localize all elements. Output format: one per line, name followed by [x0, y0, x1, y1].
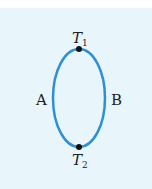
label-t2: T2	[72, 151, 88, 170]
point-t2	[76, 144, 82, 150]
loop-diagram: T1 T2 A B	[0, 0, 152, 189]
label-path-b: B	[111, 91, 122, 109]
label-t1: T1	[72, 29, 88, 48]
label-path-a: A	[35, 91, 47, 109]
closed-loop-path	[53, 49, 105, 147]
